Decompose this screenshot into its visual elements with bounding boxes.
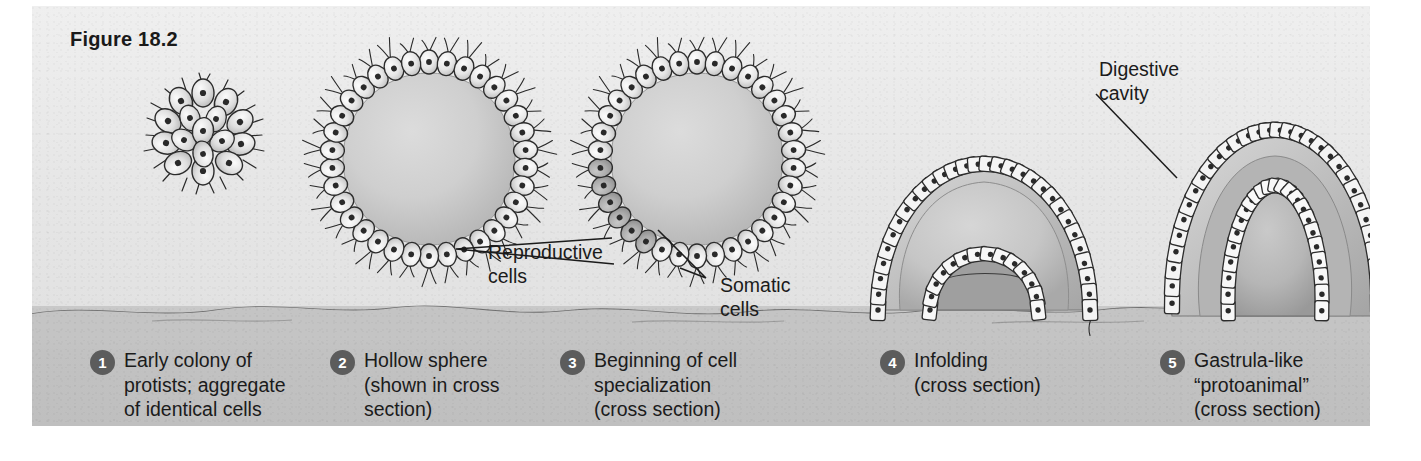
caption-stage-2: 2 Hollow sphere (shown in cross section) bbox=[330, 348, 552, 422]
caption-text-stage-5: Gastrula-like “protoanimal” (cross secti… bbox=[1194, 348, 1321, 422]
label-reproductive-cells: Reproductive cells bbox=[488, 241, 603, 289]
badge-stage-4: 4 bbox=[880, 350, 905, 375]
caption-text-stage-1: Early colony of protists; aggregate of i… bbox=[124, 348, 286, 422]
label-digestive-cavity: Digestive cavity bbox=[1099, 58, 1179, 106]
diagram-gastrula bbox=[1150, 102, 1370, 330]
figure-panel: Reproductive cells Somatic cells Digesti… bbox=[32, 6, 1370, 426]
caption-text-stage-4: Infolding (cross section) bbox=[914, 348, 1041, 397]
caption-stage-1: 1 Early colony of protists; aggregate of… bbox=[90, 348, 322, 422]
caption-stage-5: 5 Gastrula-like “protoanimal” (cross sec… bbox=[1160, 348, 1370, 422]
diagram-early-colony bbox=[128, 68, 278, 198]
figure-container: Reproductive cells Somatic cells Digesti… bbox=[0, 0, 1421, 461]
label-somatic-cells: Somatic cells bbox=[720, 274, 790, 322]
diagram-cell-specialization bbox=[572, 34, 822, 284]
caption-text-stage-2: Hollow sphere (shown in cross section) bbox=[364, 348, 499, 422]
caption-text-stage-3: Beginning of cell specialization (cross … bbox=[594, 348, 737, 422]
badge-stage-3: 3 bbox=[560, 350, 585, 375]
badge-stage-5: 5 bbox=[1160, 350, 1185, 375]
badge-stage-1: 1 bbox=[90, 350, 115, 375]
figure-title: Figure 18.2 bbox=[70, 28, 178, 51]
caption-stage-4: 4 Infolding (cross section) bbox=[880, 348, 1102, 397]
caption-stage-3: 3 Beginning of cell specialization (cros… bbox=[560, 348, 810, 422]
badge-stage-2: 2 bbox=[330, 350, 355, 375]
caption-row: 1 Early colony of protists; aggregate of… bbox=[32, 348, 1370, 426]
diagram-infolding bbox=[864, 124, 1104, 324]
